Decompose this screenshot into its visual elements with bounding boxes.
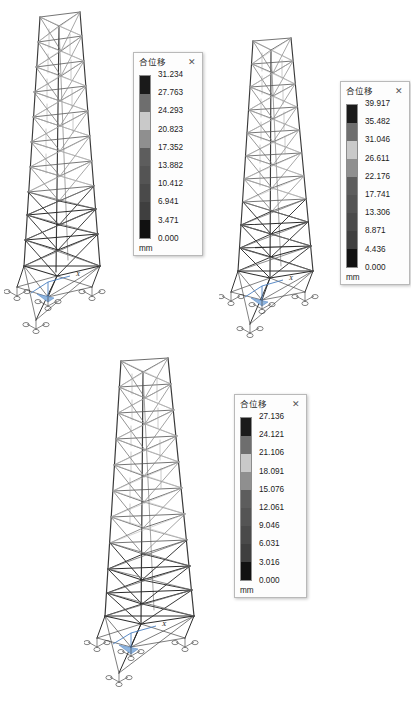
close-icon[interactable]: ✕ [186,58,198,67]
tick-label: 39.917 [365,100,405,108]
tick-label: 17.352 [158,144,198,152]
tick-label: 26.611 [365,155,405,163]
tick-label: 18.091 [259,468,302,476]
tick-label: 6.941 [158,198,198,206]
colorbar-ticks-3: 27.136 24.121 21.106 18.091 15.076 12.06… [259,413,302,585]
tick-label: 3.016 [259,559,302,567]
legend-body-1: 31.234 27.763 24.293 20.823 17.352 13.88… [139,71,198,243]
tower-members [97,358,194,673]
tick-label: 35.482 [365,118,405,126]
legend-unit-3: mm [240,586,302,595]
tick-label: 31.046 [365,136,405,144]
support-symbols [4,287,105,334]
legend-title-2: 合位移 [346,86,373,97]
tick-label: 3.471 [158,217,198,225]
tower-view-1: X [4,4,129,339]
legend-unit-1: mm [139,244,198,253]
legend-title-1: 合位移 [139,57,166,68]
legend-body-2: 39.917 35.482 31.046 26.611 22.176 17.74… [346,100,405,272]
legend-panel-3[interactable]: 合位移 ✕ 27.136 24.121 21.106 18.091 15.076 [234,394,307,598]
drawing-canvas: X 合位移 ✕ [0,0,411,702]
tick-label: 17.741 [365,191,405,199]
tick-label: 24.121 [259,431,302,439]
tick-label: 0.000 [158,235,198,243]
tower-members [231,38,313,324]
tick-label: 13.882 [158,162,198,170]
legend-body-3: 27.136 24.121 21.106 18.091 15.076 12.06… [240,413,302,585]
legend-header-1: 合位移 ✕ [139,56,198,69]
tower-view-3: X [84,348,229,698]
tick-label: 12.061 [259,504,302,512]
colorbar-2 [346,104,358,268]
tick-label: 8.871 [365,227,405,235]
lattice-tower-2: X [219,16,344,341]
tick-label: 31.234 [158,71,198,79]
tick-label: 20.823 [158,126,198,134]
tick-label: 6.031 [259,540,302,548]
colorbar-ticks-1: 31.234 27.763 24.293 20.823 17.352 13.88… [158,71,198,243]
close-icon[interactable]: ✕ [393,87,405,96]
legend-panel-1[interactable]: 合位移 ✕ 31.234 27.763 24.293 20.823 17.352 [133,52,203,256]
lattice-tower-3: X [84,348,229,698]
tick-label: 27.136 [259,413,302,421]
tick-label: 21.106 [259,449,302,457]
tick-label: 0.000 [365,264,405,272]
tick-label: 9.046 [259,522,302,530]
axis-label-x: X [161,620,167,628]
tower-view-2: X [219,16,344,341]
axis-label-x: X [288,274,294,281]
tick-label: 4.436 [365,246,405,254]
lattice-tower-1: X [4,4,129,339]
legend-header-3: 合位移 ✕ [240,398,302,411]
tower-members [17,12,100,320]
colorbar-1 [139,75,151,239]
tick-label: 0.000 [259,577,302,585]
tick-label: 15.076 [259,486,302,494]
colorbar-3 [240,417,252,581]
tick-label: 24.293 [158,107,198,115]
legend-title-3: 合位移 [240,399,267,410]
legend-unit-2: mm [346,273,405,282]
tick-label: 10.412 [158,180,198,188]
close-icon[interactable]: ✕ [290,400,302,409]
colorbar-ticks-2: 39.917 35.482 31.046 26.611 22.176 17.74… [365,100,405,272]
tick-label: 13.306 [365,209,405,217]
tick-label: 22.176 [365,173,405,181]
legend-header-2: 合位移 ✕ [346,85,405,98]
legend-panel-2[interactable]: 合位移 ✕ 39.917 35.482 31.046 26.611 22.176 [340,81,410,285]
tick-label: 27.763 [158,89,198,97]
